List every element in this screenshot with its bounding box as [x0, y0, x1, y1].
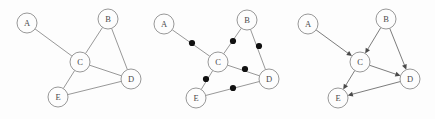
node-circle-C[interactable]: [350, 52, 370, 72]
arrowhead-D-E: [348, 92, 354, 97]
subdivided-graph: ABCDE: [154, 10, 279, 108]
node-A[interactable]: A: [17, 13, 37, 33]
arrowhead-A-C: [346, 51, 352, 56]
node-circle-D[interactable]: [259, 69, 279, 89]
node-B[interactable]: B: [237, 10, 257, 30]
node-E[interactable]: E: [328, 88, 348, 108]
node-circle-A[interactable]: [17, 13, 37, 33]
node-C[interactable]: C: [70, 52, 90, 72]
node-circle-E[interactable]: [48, 87, 68, 107]
node-circle-C[interactable]: [208, 52, 228, 72]
graph-figure: ABCDEABCDEABCDE: [0, 0, 435, 119]
node-D[interactable]: D: [259, 69, 279, 89]
edge-C-E: [345, 71, 355, 88]
node-circle-B[interactable]: [237, 10, 257, 30]
directed-graph: ABCDE: [298, 9, 420, 108]
node-circle-D[interactable]: [400, 69, 420, 89]
midpoint-dot-B-D: [256, 43, 262, 49]
edge-C-D: [89, 65, 121, 76]
midpoint-dot-B-C: [230, 38, 236, 44]
node-B[interactable]: B: [98, 9, 118, 29]
midpoint-dot-C-E: [203, 76, 209, 82]
node-circle-B[interactable]: [376, 9, 396, 29]
node-C[interactable]: C: [350, 52, 370, 72]
arrowhead-C-D: [395, 72, 401, 77]
edge-B-C: [85, 27, 102, 53]
midpoint-dot-E-D: [230, 85, 236, 91]
node-circle-B[interactable]: [98, 9, 118, 29]
edge-A-C: [35, 29, 72, 56]
node-circle-A[interactable]: [298, 14, 318, 34]
midpoint-dot-A-C: [189, 40, 195, 46]
node-circle-D[interactable]: [121, 69, 141, 89]
subdivided-graph-nodes: ABCDE: [154, 10, 279, 108]
node-D[interactable]: D: [400, 69, 420, 89]
node-circle-E[interactable]: [328, 88, 348, 108]
arrowhead-C-E: [343, 84, 348, 90]
edge-C-E: [63, 70, 74, 88]
node-E[interactable]: E: [48, 87, 68, 107]
undirected-graph-nodes: ABCDE: [17, 9, 141, 107]
edge-C-D: [369, 65, 397, 75]
node-E[interactable]: E: [186, 88, 206, 108]
midpoint-dot-C-D: [242, 66, 248, 72]
undirected-graph: ABCDE: [17, 9, 141, 107]
arrowhead-B-C: [365, 48, 370, 54]
node-circle-E[interactable]: [186, 88, 206, 108]
edge-B-C: [367, 28, 381, 51]
node-circle-C[interactable]: [70, 52, 90, 72]
node-A[interactable]: A: [154, 14, 174, 34]
graph-canvas: ABCDEABCDEABCDE: [0, 0, 435, 119]
edge-B-D: [390, 28, 406, 67]
edge-D-E: [350, 82, 400, 95]
node-B[interactable]: B: [376, 9, 396, 29]
edge-B-D: [112, 28, 128, 69]
node-D[interactable]: D: [121, 69, 141, 89]
edge-A-C: [316, 30, 350, 55]
edge-E-D: [68, 81, 122, 94]
node-C[interactable]: C: [208, 52, 228, 72]
node-A[interactable]: A: [298, 14, 318, 34]
edge-B-D: [250, 29, 265, 69]
node-circle-A[interactable]: [154, 14, 174, 34]
